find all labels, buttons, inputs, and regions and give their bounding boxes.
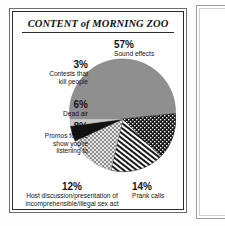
chart-card: CONTENT of MORNING ZOO: [9, 8, 187, 213]
callout-percent: 57%: [114, 39, 180, 50]
callout-label-line1: Promos for the: [12, 132, 88, 139]
callout-percent: 3%: [16, 59, 88, 70]
callout-label-line3: listening to: [12, 147, 88, 154]
callout-label-line2: incomprehensible/illegal sex act: [13, 200, 131, 207]
callout-promos: 8% Promos for the show you're listening …: [12, 121, 88, 154]
adjacent-page-panel: [196, 5, 225, 219]
callout-percent: 14%: [132, 181, 192, 192]
callout-percent: 8%: [12, 121, 88, 132]
callout-host-discussion: 12% Host discussion/presentation of inco…: [13, 181, 131, 207]
callout-label: Prank calls: [132, 192, 192, 199]
callout-percent: 12%: [13, 181, 131, 192]
callout-label: Dead air: [16, 110, 88, 117]
callout-sound-effects: 57% Sound effects: [114, 39, 180, 58]
callout-label-line1: Contests that: [16, 70, 88, 77]
page-title: CONTENT of MORNING ZOO: [10, 18, 186, 29]
callout-percent: 6%: [16, 99, 88, 110]
callout-label-line1: Host discussion/presentation of: [13, 192, 131, 199]
callout-label-line2: kill people: [16, 78, 88, 85]
callout-label-line2: show you're: [12, 140, 88, 147]
figure-root: CONTENT of MORNING ZOO: [0, 0, 225, 226]
callout-contests: 3% Contests that kill people: [16, 59, 88, 85]
callout-prank-calls: 14% Prank calls: [132, 181, 192, 200]
title-divider: [22, 32, 174, 33]
callout-label: Sound effects: [114, 50, 180, 57]
callout-dead-air: 6% Dead air: [16, 99, 88, 118]
